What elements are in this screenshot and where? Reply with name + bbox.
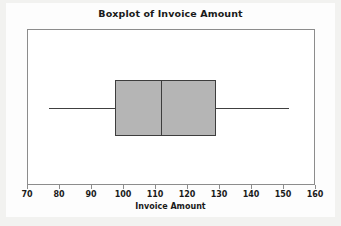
box-iqr xyxy=(115,80,216,136)
x-tick-mark xyxy=(155,185,156,189)
x-tick-label: 80 xyxy=(53,190,64,199)
boxplot-figure: Boxplot of Invoice Amount 70809010011012… xyxy=(0,0,341,226)
x-axis-label: Invoice Amount xyxy=(0,202,341,211)
x-tick-mark xyxy=(91,185,92,189)
x-tick-label: 100 xyxy=(115,190,132,199)
x-tick-label: 160 xyxy=(307,190,324,199)
x-tick-mark xyxy=(59,185,60,189)
x-tick-mark xyxy=(27,185,28,189)
x-tick-mark xyxy=(315,185,316,189)
x-tick-label: 140 xyxy=(243,190,260,199)
x-tick-label: 70 xyxy=(21,190,32,199)
x-tick-label: 130 xyxy=(211,190,228,199)
x-tick-mark xyxy=(187,185,188,189)
median-line xyxy=(161,80,162,136)
x-tick-label: 150 xyxy=(275,190,292,199)
x-tick-label: 90 xyxy=(85,190,96,199)
x-tick-mark xyxy=(283,185,284,189)
whisker-lower xyxy=(49,108,115,109)
x-tick-label: 110 xyxy=(147,190,164,199)
x-tick-label: 120 xyxy=(179,190,196,199)
chart-title: Boxplot of Invoice Amount xyxy=(0,8,341,19)
plot-area xyxy=(27,29,315,185)
x-tick-mark xyxy=(123,185,124,189)
whisker-upper xyxy=(216,108,290,109)
x-tick-mark xyxy=(251,185,252,189)
x-tick-mark xyxy=(219,185,220,189)
